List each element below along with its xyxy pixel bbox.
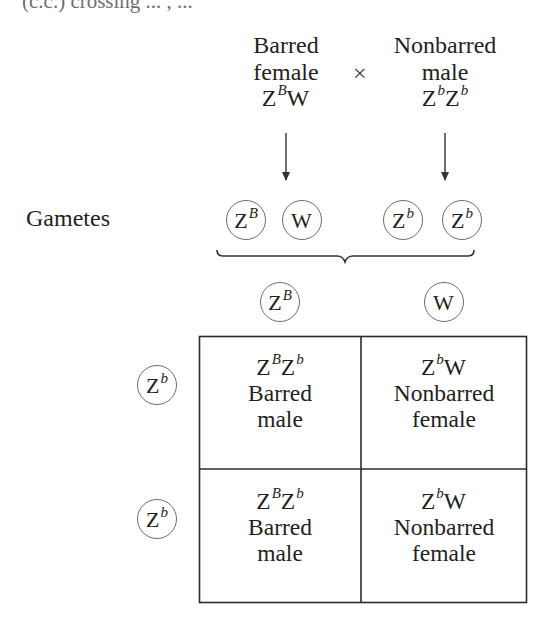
column-header-gamete: ZB [260, 282, 300, 322]
cell-genotype: ZbW [363, 488, 525, 514]
row-header-gamete: Zb [137, 499, 177, 539]
cross-symbol: × [353, 60, 367, 87]
cell-genotype: ZBZb [199, 354, 361, 380]
cell-phenotype-line2: female [363, 540, 525, 566]
cell-genotype: ZbW [363, 354, 525, 380]
gamete-circle: ZB [226, 200, 266, 240]
male-phenotype-line2: male [370, 59, 520, 86]
cell-phenotype-line1: Barred [199, 380, 361, 406]
gamete-circle: Zb [383, 200, 423, 240]
parent-male: Nonbarred male ZbZb [370, 32, 520, 112]
row-header-gamete: Zb [137, 365, 177, 405]
column-header-gamete: W [424, 282, 464, 322]
gamete-circle: Zb [442, 200, 482, 240]
gamete-circle: W [282, 200, 322, 240]
parent-female: Barred female ZBW [211, 32, 361, 112]
female-phenotype-line1: Barred [211, 32, 361, 59]
punnett-cell: ZbW Nonbarred female [363, 488, 525, 566]
cell-phenotype-line2: female [363, 406, 525, 432]
gametes-label: Gametes [26, 205, 110, 232]
female-genotype: ZBW [211, 85, 361, 112]
cell-phenotype-line2: male [199, 540, 361, 566]
cell-phenotype-line1: Nonbarred [363, 380, 525, 406]
male-genotype: ZbZb [370, 85, 520, 112]
cell-phenotype-line1: Nonbarred [363, 514, 525, 540]
cell-phenotype-line2: male [199, 406, 361, 432]
cell-genotype: ZBZb [199, 488, 361, 514]
punnett-cell: ZBZb Barred male [199, 354, 361, 432]
punnett-cell: ZbW Nonbarred female [363, 354, 525, 432]
cell-phenotype-line1: Barred [199, 514, 361, 540]
gamete-brace-icon [217, 250, 474, 262]
left-arrowhead-icon [282, 172, 290, 181]
male-phenotype-line1: Nonbarred [370, 32, 520, 59]
punnett-cell: ZBZb Barred male [199, 488, 361, 566]
right-arrowhead-icon [441, 172, 449, 181]
